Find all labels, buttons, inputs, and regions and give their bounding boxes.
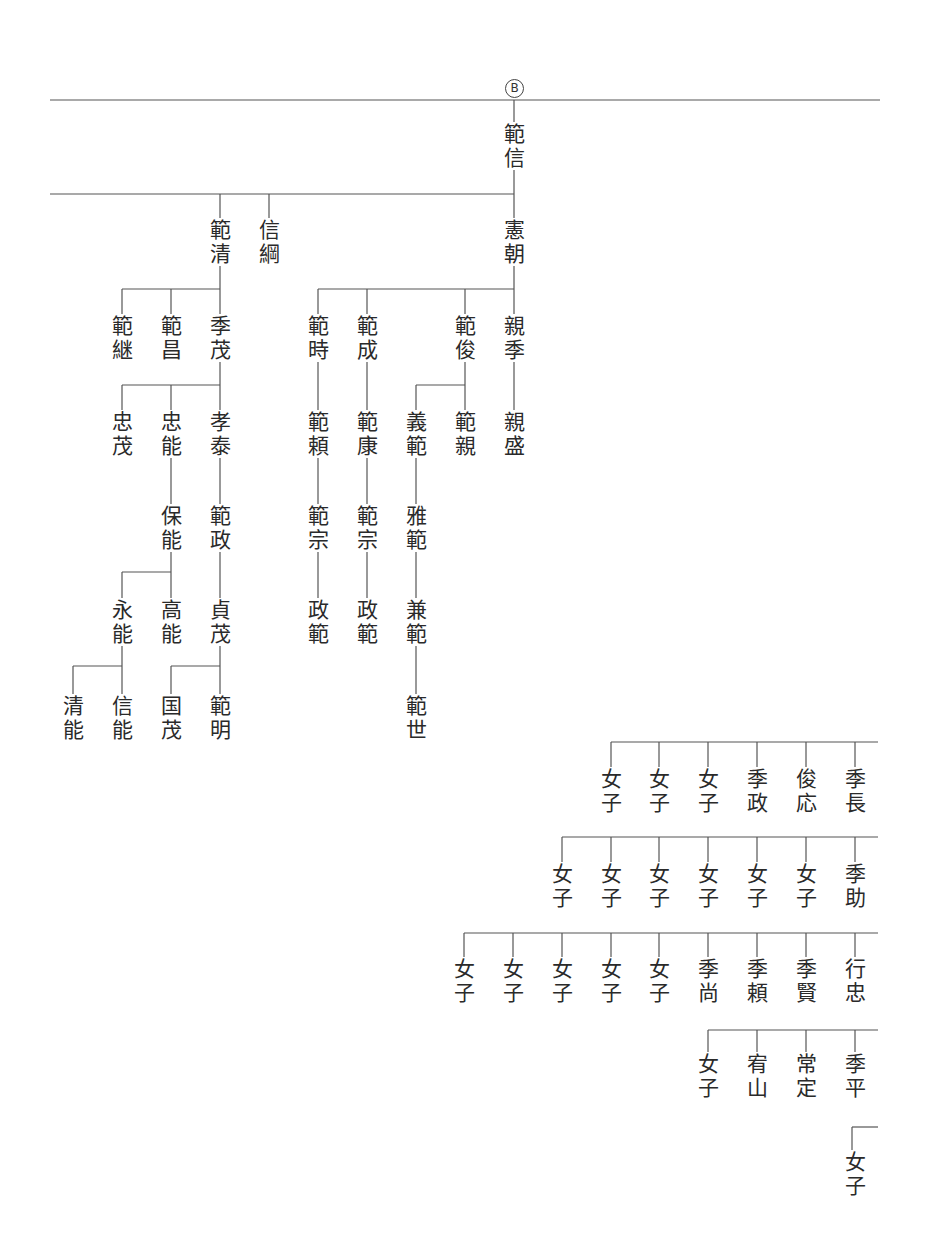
name-char: 明 <box>208 718 232 742</box>
name-char: 季 <box>843 862 867 886</box>
name-char: 茂 <box>159 718 183 742</box>
person-node: 政範 <box>306 598 330 646</box>
person-node: 永能 <box>110 598 134 646</box>
name-char: 女 <box>647 767 671 791</box>
person-node: 常定 <box>794 1052 818 1100</box>
name-char: 能 <box>159 528 183 552</box>
name-char: 子 <box>745 886 769 910</box>
person-node: 季尚 <box>696 957 720 1005</box>
name-char: 範 <box>110 314 134 338</box>
name-char: 子 <box>647 981 671 1005</box>
genealogy-diagram: B 範信範清信綱憲朝範継範昌季茂範時範成範俊親季忠茂忠能孝泰範頼範康義範範親親盛… <box>0 0 928 1248</box>
name-char: 子 <box>843 1174 867 1198</box>
name-char: 雅 <box>404 504 428 528</box>
person-node: 女子 <box>599 957 623 1005</box>
name-char: 子 <box>501 981 525 1005</box>
name-char: 女 <box>647 957 671 981</box>
name-char: 時 <box>306 338 330 362</box>
name-char: 政 <box>355 598 379 622</box>
name-char: 女 <box>501 957 525 981</box>
name-char: 範 <box>453 314 477 338</box>
name-char: 子 <box>696 886 720 910</box>
person-node: 範康 <box>355 410 379 458</box>
name-char: 女 <box>794 862 818 886</box>
name-char: 高 <box>159 598 183 622</box>
name-char: 子 <box>599 981 623 1005</box>
name-char: 常 <box>794 1052 818 1076</box>
name-char: 女 <box>696 1052 720 1076</box>
name-char: 季 <box>843 1052 867 1076</box>
person-node: 範宗 <box>355 504 379 552</box>
name-char: 子 <box>794 886 818 910</box>
name-char: 範 <box>453 410 477 434</box>
person-node: 憲朝 <box>502 218 526 266</box>
name-char: 能 <box>61 718 85 742</box>
name-char: 範 <box>306 504 330 528</box>
person-node: 女子 <box>599 862 623 910</box>
person-node: 範信 <box>502 122 526 170</box>
person-node: 季長 <box>843 767 867 815</box>
name-char: 女 <box>550 862 574 886</box>
name-char: 範 <box>159 314 183 338</box>
name-char: 親 <box>453 434 477 458</box>
person-node: 親季 <box>502 314 526 362</box>
name-char: 範 <box>404 528 428 552</box>
name-char: 世 <box>404 718 428 742</box>
name-char: 茂 <box>208 338 232 362</box>
name-char: 茂 <box>110 434 134 458</box>
person-node: 女子 <box>501 957 525 1005</box>
name-char: 信 <box>110 694 134 718</box>
name-char: 範 <box>404 434 428 458</box>
person-node: 範時 <box>306 314 330 362</box>
name-char: 信 <box>257 218 281 242</box>
person-node: 女子 <box>550 862 574 910</box>
name-char: 盛 <box>502 434 526 458</box>
name-char: 朝 <box>502 242 526 266</box>
name-char: 範 <box>306 622 330 646</box>
name-char: 範 <box>502 122 526 146</box>
name-char: 長 <box>843 791 867 815</box>
name-char: 平 <box>843 1076 867 1100</box>
person-node: 範政 <box>208 504 232 552</box>
person-node: 季賢 <box>794 957 818 1005</box>
person-node: 範継 <box>110 314 134 362</box>
person-node: 忠能 <box>159 410 183 458</box>
name-char: 康 <box>355 434 379 458</box>
name-char: 季 <box>208 314 232 338</box>
person-node: 親盛 <box>502 410 526 458</box>
person-node: 範俊 <box>453 314 477 362</box>
name-char: 政 <box>208 528 232 552</box>
name-char: 国 <box>159 694 183 718</box>
name-char: 賢 <box>794 981 818 1005</box>
name-char: 茂 <box>208 622 232 646</box>
name-char: 応 <box>794 791 818 815</box>
name-char: 範 <box>306 410 330 434</box>
name-char: 季 <box>696 957 720 981</box>
name-char: 山 <box>745 1076 769 1100</box>
person-node: 女子 <box>745 862 769 910</box>
name-char: 子 <box>599 886 623 910</box>
person-node: 季平 <box>843 1052 867 1100</box>
name-char: 行 <box>843 957 867 981</box>
name-char: 助 <box>843 886 867 910</box>
name-char: 昌 <box>159 338 183 362</box>
name-char: 継 <box>110 338 134 362</box>
name-char: 綱 <box>257 242 281 266</box>
circled-letter-icon: B <box>505 79 524 98</box>
name-char: 子 <box>550 886 574 910</box>
person-node: 女子 <box>647 957 671 1005</box>
name-char: 永 <box>110 598 134 622</box>
person-node: 女子 <box>647 767 671 815</box>
name-char: 清 <box>61 694 85 718</box>
person-node: 範頼 <box>306 410 330 458</box>
person-node: 範宗 <box>306 504 330 552</box>
person-node: 範世 <box>404 694 428 742</box>
person-node: 信能 <box>110 694 134 742</box>
name-char: 範 <box>208 218 232 242</box>
person-node: 季茂 <box>208 314 232 362</box>
person-node: 季政 <box>745 767 769 815</box>
name-char: 季 <box>794 957 818 981</box>
person-node: 清能 <box>61 694 85 742</box>
person-node: 季助 <box>843 862 867 910</box>
section-marker-b: B <box>505 79 525 99</box>
